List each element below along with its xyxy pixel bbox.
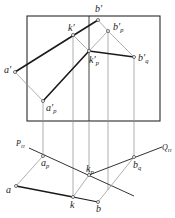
line-a-k-b xyxy=(16,186,73,197)
label-b: b xyxy=(96,203,101,214)
label-k: k xyxy=(70,199,75,210)
label-b-p-prime: b′p xyxy=(113,21,124,33)
line-a-to-a-p xyxy=(16,156,43,186)
label-k-p: kp xyxy=(86,163,94,175)
point-b-q-prime xyxy=(133,56,136,59)
projection-diagram: b′ k′ b′p k′p b′q a′ a′p PH QH ap kp bq … xyxy=(0,0,175,218)
label-a-prime: a′ xyxy=(4,64,12,75)
line-k-b xyxy=(73,197,98,202)
point-k-p-prime xyxy=(88,50,91,53)
label-a: a xyxy=(6,184,11,195)
line-b-p-prime-to-b-q-prime xyxy=(108,31,134,57)
line-b-to-b-q xyxy=(98,157,134,202)
line-k-prime-to-k-p-prime xyxy=(73,35,89,51)
line-b-prime-to-b-p-prime xyxy=(98,20,108,31)
line-b-p-prime-to-k-p-prime xyxy=(89,31,108,51)
label-p-h: PH xyxy=(15,139,25,149)
trace-p-h xyxy=(29,148,134,196)
label-b-q-prime: b′q xyxy=(138,52,149,64)
label-b-q: bq xyxy=(133,159,142,171)
point-k-prime xyxy=(72,34,75,37)
trace-q-h xyxy=(89,147,162,175)
label-a-p: ap xyxy=(41,157,50,169)
point-a xyxy=(15,185,18,188)
label-k-prime: k′ xyxy=(68,22,75,33)
line-a-prime-to-a-p-prime xyxy=(15,72,43,101)
label-k-p-prime: k′p xyxy=(89,54,100,66)
point-b-p-prime xyxy=(107,30,110,33)
label-a-p-prime: a′p xyxy=(46,102,57,114)
label-q-h: QH xyxy=(162,143,172,153)
line-k-to-k-p xyxy=(73,175,89,197)
point-b-prime xyxy=(97,19,100,22)
point-a-prime xyxy=(14,71,17,74)
line-k-p-prime-b-q-prime xyxy=(89,51,134,57)
line-a-p-prime-k-p-prime xyxy=(43,51,89,101)
label-b-prime: b′ xyxy=(95,3,103,14)
point-a-p-prime xyxy=(42,100,45,103)
